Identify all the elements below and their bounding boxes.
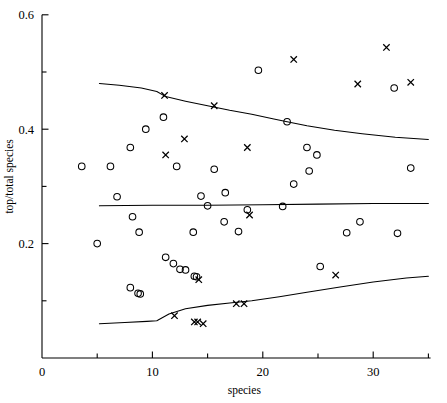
x-tick-label: 20 [257, 365, 270, 379]
data-point-circle [407, 165, 414, 172]
x-tick-label: 0 [39, 365, 45, 379]
data-point-circle [107, 163, 114, 170]
data-point-circle [343, 229, 350, 236]
data-point-cross [332, 272, 338, 278]
axes [42, 15, 431, 358]
data-point-cross [200, 320, 206, 326]
y-axis-title: top/total species [3, 139, 16, 214]
data-point-circle [317, 263, 324, 270]
data-point-circle [136, 229, 143, 236]
data-point-circle [211, 166, 218, 173]
data-point-circle [204, 203, 211, 210]
data-point-cross [171, 312, 177, 318]
data-point-circle [160, 114, 167, 121]
lower-quantile-curve [99, 276, 428, 323]
data-point-circle [314, 152, 321, 159]
data-point-circle [357, 219, 364, 226]
data-point-circle [304, 144, 311, 151]
data-point-circle [114, 193, 121, 200]
data-point-cross [244, 144, 250, 150]
quantile-curves [99, 83, 428, 323]
data-point-circle [127, 284, 134, 291]
data-point-cross [408, 79, 414, 85]
plot-canvas: 0.20.40.60102030speciestop/total species [0, 0, 447, 403]
x-tick-label: 30 [367, 365, 380, 379]
data-point-cross [194, 319, 200, 325]
data-point-cross [191, 319, 197, 325]
data-point-circle [394, 230, 401, 237]
data-point-cross [233, 300, 239, 306]
data-point-circle [142, 126, 149, 133]
data-point-circle [162, 254, 169, 261]
data-point-cross [291, 56, 297, 62]
data-point-circle [290, 181, 297, 188]
data-point-circle [222, 189, 229, 196]
median-curve [99, 204, 428, 206]
data-point-circle [170, 260, 177, 267]
data-point-cross [211, 103, 217, 109]
data-point-circle [255, 67, 262, 74]
data-point-circle [94, 240, 101, 247]
data-point-circle [127, 144, 134, 151]
data-point-circle [129, 213, 136, 220]
data-point-circle [306, 168, 313, 175]
data-point-cross [383, 44, 389, 50]
scatter-plot-figure: 0.20.40.60102030speciestop/total species [0, 0, 447, 403]
y-tick-label: 0.2 [18, 237, 34, 251]
data-point-circle [391, 85, 398, 92]
x-tick-label: 10 [146, 365, 159, 379]
data-point-circle [221, 219, 228, 226]
data-point-circle [235, 228, 242, 235]
data-point-circle [190, 229, 197, 236]
data-point-circle [78, 163, 85, 170]
data-point-cross [355, 81, 361, 87]
data-point-cross [162, 152, 168, 158]
y-tick-label: 0.4 [18, 123, 34, 137]
axis-labels: 0.20.40.60102030speciestop/total species [3, 8, 379, 397]
x-axis-title: species [228, 384, 262, 397]
y-tick-label: 0.6 [18, 8, 34, 22]
data-point-circle [173, 163, 180, 170]
data-point-circle [198, 193, 205, 200]
data-point-cross [161, 92, 167, 98]
data-point-cross [181, 136, 187, 142]
